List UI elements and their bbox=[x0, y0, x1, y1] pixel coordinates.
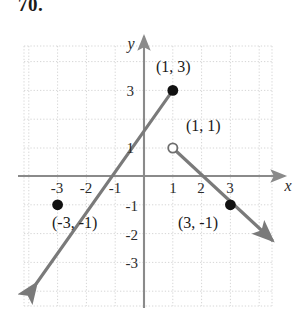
closed-point-3-neg1 bbox=[225, 199, 236, 210]
figure-page: 70. bbox=[0, 0, 306, 322]
x-tick-label-neg1: -1 bbox=[109, 180, 122, 196]
y-tick-label-neg1: -1 bbox=[126, 198, 139, 214]
x-axis-label: x bbox=[283, 177, 291, 194]
y-tick-label-neg2: -2 bbox=[126, 227, 139, 243]
point-label-3-neg1: (3, -1) bbox=[178, 214, 218, 232]
graph-svg: y x -3 -2 -1 1 2 3 3 1 -1 -2 -3 (1, 3) (… bbox=[0, 0, 306, 322]
x-tick-label-neg3: -3 bbox=[51, 180, 64, 196]
point-label-1-3: (1, 3) bbox=[156, 58, 191, 76]
y-tick-label-neg3: -3 bbox=[126, 255, 139, 271]
closed-point-1-3 bbox=[167, 85, 178, 96]
x-tick-label-2: 2 bbox=[197, 180, 205, 196]
open-point-1-1 bbox=[168, 143, 177, 152]
x-tick-label-neg2: -2 bbox=[80, 180, 93, 196]
y-tick-label-1: 1 bbox=[127, 140, 135, 156]
y-axis-label: y bbox=[125, 35, 135, 53]
y-tick-label-3: 3 bbox=[127, 83, 135, 99]
point-label-1-1: (1, 1) bbox=[186, 117, 221, 135]
coordinate-plane-figure: y x -3 -2 -1 1 2 3 3 1 -1 -2 -3 (1, 3) (… bbox=[0, 0, 306, 322]
point-label-neg3-neg1: (-3, -1) bbox=[52, 214, 97, 232]
x-tick-label-3: 3 bbox=[226, 180, 234, 196]
x-tick-label-1: 1 bbox=[169, 180, 177, 196]
closed-point-neg3-neg1 bbox=[52, 199, 63, 210]
